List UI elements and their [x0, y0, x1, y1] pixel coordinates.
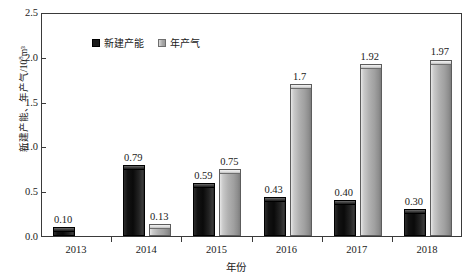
legend-label-new-capacity: 新建产能 — [104, 35, 144, 50]
y-axis-title: 新建产能、年产气/108m³ — [16, 24, 30, 174]
bar-chart-figure: 0.00.51.01.52.02.5 新建产能、年产气/108m³ 新建产能 年… — [0, 0, 471, 277]
x-tick-mark — [181, 237, 182, 242]
bar-value-label: 0.30 — [394, 197, 434, 208]
bar-value-label: 0.79 — [113, 153, 153, 164]
legend-item-new-capacity: 新建产能 — [92, 35, 144, 50]
bar-新建产能-2017 — [334, 200, 356, 236]
x-tick-label: 2018 — [397, 244, 457, 255]
legend: 新建产能 年产气 — [92, 35, 200, 50]
y-tick-label: 0.0 — [10, 232, 38, 243]
y-axis-title-unit: m³ — [19, 46, 29, 56]
bar-新建产能-2018 — [404, 209, 426, 236]
x-tick-label: 2014 — [116, 244, 176, 255]
bar-value-label: 0.59 — [183, 171, 223, 182]
bar-value-label: 1.92 — [350, 52, 390, 63]
y-tick-mark — [41, 58, 46, 59]
legend-swatch-black-icon — [92, 39, 100, 47]
legend-label-annual-gas: 年产气 — [170, 35, 200, 50]
x-tick-label: 2017 — [327, 244, 387, 255]
bar-value-label: 1.7 — [280, 72, 320, 83]
bar-新建产能-2014 — [123, 165, 145, 236]
bar-新建产能-2016 — [264, 197, 286, 236]
y-tick-mark — [41, 103, 46, 104]
bar-年产气-2017 — [360, 64, 382, 236]
y-tick-mark — [41, 147, 46, 148]
bar-新建产能-2015 — [193, 183, 215, 236]
x-tick-mark — [322, 237, 323, 242]
bar-value-label: 0.43 — [254, 185, 294, 196]
x-tick-mark — [252, 237, 253, 242]
x-tick-label: 2015 — [186, 244, 246, 255]
bar-value-label: 0.40 — [324, 188, 364, 199]
x-axis-title: 年份 — [0, 259, 471, 274]
x-tick-label: 2013 — [46, 244, 106, 255]
y-tick-label: 0.5 — [10, 187, 38, 198]
x-tick-mark — [392, 237, 393, 242]
y-tick-label: 2.5 — [10, 8, 38, 19]
x-tick-mark — [111, 237, 112, 242]
legend-swatch-gray-icon — [158, 39, 166, 47]
bar-年产气-2018 — [430, 60, 452, 237]
bar-value-label: 0.10 — [43, 215, 83, 226]
bar-新建产能-2013 — [53, 227, 75, 236]
y-tick-mark — [41, 192, 46, 193]
bar-value-label: 1.97 — [420, 47, 460, 58]
bar-value-label: 0.75 — [209, 157, 249, 168]
legend-item-annual-gas: 年产气 — [158, 35, 200, 50]
x-tick-label: 2016 — [257, 244, 317, 255]
y-axis-title-main: 新建产能、年产气/10 — [19, 60, 29, 152]
bar-年产气-2014 — [149, 224, 171, 236]
y-axis-title-exponent: 8 — [17, 56, 25, 60]
bar-年产气-2016 — [290, 84, 312, 236]
bar-value-label: 0.13 — [139, 212, 179, 223]
